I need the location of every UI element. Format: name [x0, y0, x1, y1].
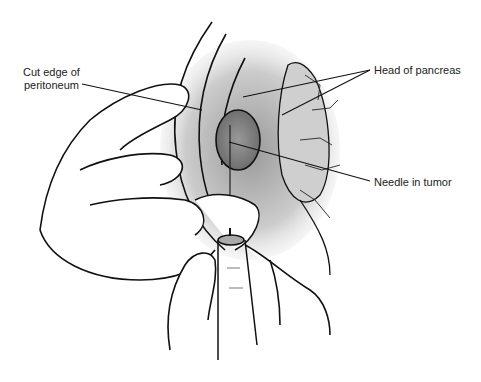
label-needle-in-tumor: Needle in tumor	[374, 176, 452, 189]
label-head-of-pancreas: Head of pancreas	[374, 64, 461, 77]
syringe-markings	[227, 268, 243, 288]
label-cut-edge-of-peritoneum: Cut edge of peritoneum	[23, 66, 80, 92]
tumor	[216, 110, 260, 170]
bottom-hand	[168, 245, 330, 350]
label-line-1: Cut edge of	[23, 66, 80, 79]
label-line-2: peritoneum	[23, 79, 80, 92]
illustration	[0, 0, 481, 382]
